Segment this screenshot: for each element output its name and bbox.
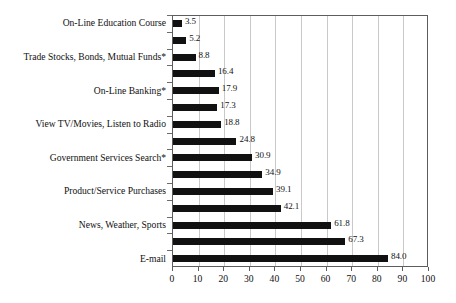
- bar-row: 8.8: [173, 50, 427, 67]
- bar-value-label: 16.4: [218, 65, 233, 78]
- y-axis-tick: [167, 82, 172, 83]
- bar: [173, 238, 345, 245]
- bar-row: 61.8: [173, 218, 427, 235]
- x-axis-tick-50: [300, 267, 301, 271]
- x-axis-tick-80: [377, 267, 378, 271]
- bar: [173, 255, 388, 262]
- bar-row: 24.8: [173, 134, 427, 151]
- x-axis-tick-70: [351, 267, 352, 271]
- bar-value-label: 84.0: [391, 250, 406, 263]
- bar-row: 84.0: [173, 251, 427, 268]
- bar-value-label: 8.8: [199, 49, 210, 62]
- bar-row: 17.3: [173, 100, 427, 117]
- y-axis-tick: [167, 233, 172, 234]
- bar: [173, 54, 196, 61]
- plot-area: 3.55.28.816.417.917.318.824.830.934.939.…: [172, 15, 428, 267]
- category-label: E-mail: [140, 253, 166, 265]
- bar-row: 5.2: [173, 33, 427, 50]
- x-axis-tick-40: [274, 267, 275, 271]
- y-axis-tick: [167, 49, 172, 50]
- bar-value-label: 30.9: [255, 149, 270, 162]
- bar-row: 3.5: [173, 16, 427, 33]
- bar-value-label: 42.1: [284, 200, 299, 213]
- x-axis-tick-30: [249, 267, 250, 271]
- y-axis-tick: [167, 116, 172, 117]
- bar-value-label: 24.8: [239, 133, 254, 146]
- bar-value-label: 5.2: [189, 32, 200, 45]
- bar-value-label: 61.8: [334, 217, 349, 230]
- bar-row: 39.1: [173, 184, 427, 201]
- bar: [173, 171, 262, 178]
- category-label: Government Services Search*: [50, 152, 166, 164]
- bar-row: 18.8: [173, 117, 427, 134]
- category-label: Product/Service Purchases: [64, 185, 166, 197]
- y-axis-tick: [167, 15, 172, 16]
- bar: [173, 154, 252, 161]
- bar-value-label: 39.1: [276, 183, 291, 196]
- bar: [173, 138, 236, 145]
- y-axis-tick: [167, 166, 172, 167]
- bar-value-label: 67.3: [348, 233, 363, 246]
- category-label: On-Line Education Course: [63, 17, 166, 29]
- y-axis-tick: [167, 200, 172, 201]
- x-axis-tick-60: [326, 267, 327, 271]
- bar-row: 30.9: [173, 150, 427, 167]
- x-axis-tick-100: [428, 267, 429, 271]
- y-axis-tick: [167, 183, 172, 184]
- bar: [173, 104, 217, 111]
- bar-row: 42.1: [173, 201, 427, 218]
- y-axis-tick: [167, 99, 172, 100]
- bar-row: 67.3: [173, 234, 427, 251]
- bar: [173, 37, 186, 44]
- bar: [173, 188, 273, 195]
- x-axis-tick-0: [172, 267, 173, 271]
- y-axis-tick: [167, 217, 172, 218]
- x-axis-label-100: 100: [413, 273, 443, 285]
- x-axis-tick-90: [402, 267, 403, 271]
- bar-chart: 3.55.28.816.417.917.318.824.830.934.939.…: [0, 0, 456, 303]
- bar-value-label: 18.8: [224, 116, 239, 129]
- bar: [173, 121, 221, 128]
- bar-row: 34.9: [173, 167, 427, 184]
- bar-value-label: 3.5: [185, 15, 196, 28]
- bar-value-label: 34.9: [265, 166, 280, 179]
- category-label: News, Weather, Sports: [79, 219, 166, 231]
- bar: [173, 205, 281, 212]
- bar-row: 16.4: [173, 66, 427, 83]
- category-label: View TV/Movies, Listen to Radio: [35, 118, 166, 130]
- bar: [173, 20, 182, 27]
- y-axis-tick: [167, 32, 172, 33]
- bar: [173, 87, 219, 94]
- bar-value-label: 17.9: [222, 82, 237, 95]
- x-axis-tick-20: [223, 267, 224, 271]
- y-axis-tick: [167, 149, 172, 150]
- category-label: On-Line Banking*: [94, 85, 166, 97]
- bar-row: 17.9: [173, 83, 427, 100]
- bar-value-label: 17.3: [220, 99, 235, 112]
- x-axis-tick-10: [198, 267, 199, 271]
- y-axis-tick: [167, 65, 172, 66]
- category-label: Trade Stocks, Bonds, Mutual Funds*: [23, 51, 166, 63]
- y-axis-tick: [167, 250, 172, 251]
- bar: [173, 70, 215, 77]
- bar: [173, 222, 331, 229]
- y-axis-tick: [167, 133, 172, 134]
